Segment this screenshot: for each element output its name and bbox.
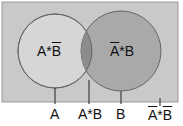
label-b: B	[116, 107, 125, 121]
label-a: A	[50, 107, 59, 121]
region-not-a-b-label: A*B	[110, 44, 134, 58]
label-a-and-b: A*B	[78, 107, 102, 121]
label-not-a-not-b: A*B	[148, 108, 172, 122]
region-a-not-b-label: A*B	[37, 44, 61, 58]
